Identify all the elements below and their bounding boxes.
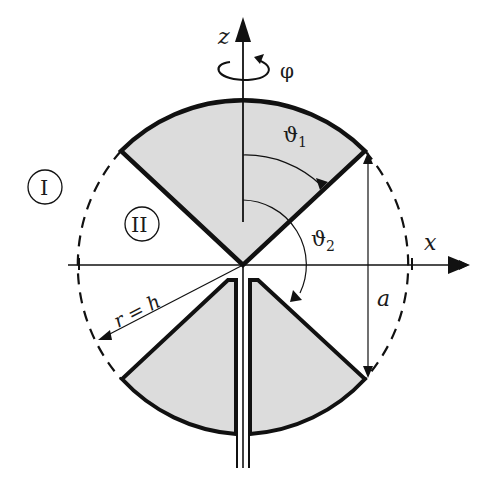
region-I-label: I xyxy=(40,176,48,200)
z-axis-arrowhead xyxy=(235,17,251,42)
x-axis-label: x xyxy=(424,230,437,255)
phi-label: φ xyxy=(280,59,294,83)
x-axis-arrowhead xyxy=(448,256,470,274)
radius-label: r = h xyxy=(110,290,164,332)
region-II-label: II xyxy=(131,213,148,237)
theta2-label: ϑ2 xyxy=(311,227,335,254)
height-label-a: a xyxy=(377,286,390,311)
lower-cone-right xyxy=(250,280,365,434)
feed-line xyxy=(237,265,249,470)
z-axis-label: z xyxy=(217,24,230,49)
biconical-antenna-diagram: z φ x I II ϑ1 ϑ2 a r = h xyxy=(0,0,492,478)
